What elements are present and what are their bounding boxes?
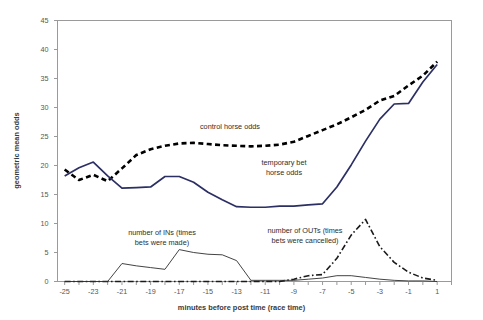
x-tick-label: 1 [424,287,450,296]
x-tick-label: -19 [138,287,164,296]
x-tick-label: -15 [195,287,221,296]
x-tick-label: -9 [281,287,307,296]
x-tick-label: -13 [224,287,250,296]
annotation-control-horse-odds: control horse odds [178,122,282,132]
y-tick-label: 35 [25,74,49,83]
chart-plot-area [0,0,483,320]
y-tick-label: 20 [25,161,49,170]
x-tick-label: -25 [52,287,78,296]
y-tick-label: 30 [25,103,49,112]
y-tick-label: 15 [25,190,49,199]
y-tick-label: 5 [25,248,49,257]
y-tick-label: 45 [25,16,49,25]
annotation-number-of-outs: number of OUTs (times bets were cancelle… [244,226,366,245]
x-tick-label: -23 [80,287,106,296]
series-line-temporary [65,65,438,208]
y-tick-label: 25 [25,132,49,141]
annotation-number-of-ins: number of INs (times bets were made) [104,228,220,247]
chart-figure: 051015202530354045 -25-23-21-19-17-15-13… [0,0,483,320]
x-axis-title: minutes before post time (race time) [0,303,483,312]
x-tick-label: -21 [109,287,135,296]
x-tick-label: -7 [310,287,336,296]
y-tick-label: 0 [25,277,49,286]
y-tick-label: 10 [25,219,49,228]
series-line-ins [65,250,438,282]
y-axis-ticks [54,21,58,282]
x-tick-label: -11 [252,287,278,296]
annotation-temporary-bet-horse-odds: temporary bet horse odds [244,158,324,177]
x-tick-label: -17 [166,287,192,296]
x-tick-label: -5 [338,287,364,296]
x-tick-label: -3 [367,287,393,296]
x-tick-label: -1 [396,287,422,296]
y-tick-label: 40 [25,45,49,54]
y-axis-title: geometric mean odds [12,91,21,211]
